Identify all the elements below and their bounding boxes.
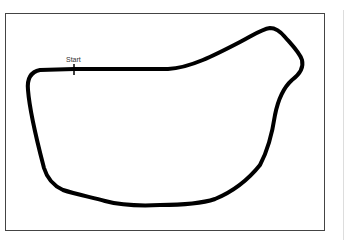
track-diagram: Start <box>0 0 345 244</box>
start-label: Start <box>66 56 81 63</box>
track-outline <box>28 28 303 205</box>
